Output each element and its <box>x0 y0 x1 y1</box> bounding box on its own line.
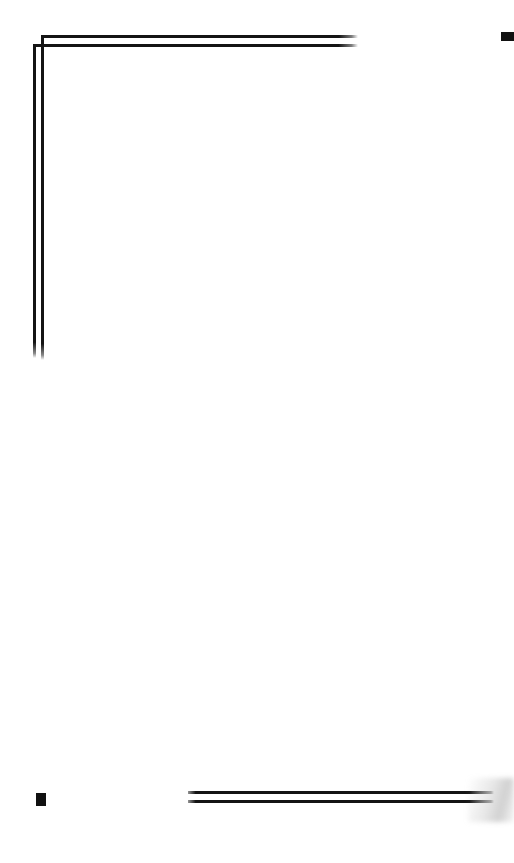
registration-mark-top-right <box>501 32 514 41</box>
document-page <box>0 0 514 863</box>
footer-upper-rule <box>188 791 494 794</box>
frame-left-inner-rule <box>33 44 36 358</box>
frame-top-outer-rule <box>41 35 358 38</box>
frame-top-inner-rule <box>33 44 358 47</box>
footer-lower-rule <box>188 800 494 803</box>
registration-mark-bottom-left <box>36 793 46 806</box>
frame-left-outer-rule <box>41 35 44 360</box>
